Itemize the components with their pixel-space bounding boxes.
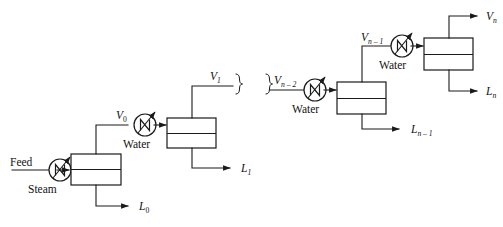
feed-label: Feed <box>10 156 33 168</box>
Vn-vapor-line <box>449 16 477 38</box>
Vn-2-label: Vn – 2 <box>274 74 296 89</box>
evaporator-flowsheet-diagram: Feed Steam V0 L0 Water V1 L1 <box>0 0 503 227</box>
heat-exchanger-1 <box>134 112 156 136</box>
water-3-label: Water <box>379 59 406 71</box>
Vn-label: Vn <box>486 10 497 25</box>
evaporator-4 <box>424 38 473 70</box>
V1-vapor-line <box>192 86 233 118</box>
L0-label: L0 <box>138 200 149 215</box>
Ln-1-liquid-line <box>362 114 399 129</box>
L1-liquid-line <box>192 148 230 168</box>
steam-label: Steam <box>28 183 57 195</box>
flowsheet-canvas: Feed Steam V0 L0 Water V1 L1 <box>0 0 503 227</box>
Vn-1-label: Vn – 1 <box>361 31 383 46</box>
heat-exchanger-2 <box>304 77 326 101</box>
heat-exchanger-3 <box>391 33 413 57</box>
break-mark-left <box>236 74 243 94</box>
stage-n-minus-1-group: Vn – 2 Water Ln – 1 <box>270 46 433 138</box>
stage-1-group: Water V1 L1 <box>123 70 251 177</box>
evaporator-3 <box>337 82 386 114</box>
Ln-1-label: Ln – 1 <box>410 123 433 138</box>
Ln-liquid-line <box>449 70 477 91</box>
break-mark-right <box>266 74 273 94</box>
V0-label: V0 <box>116 109 127 124</box>
evaporator-2 <box>167 118 216 148</box>
evaporator-1 <box>71 154 121 185</box>
heat-exchanger-steam <box>49 157 71 181</box>
Ln-label: Ln <box>485 85 496 100</box>
L1-label: L1 <box>240 162 251 177</box>
break-marks-group <box>236 74 273 94</box>
water-2-label: Water <box>292 103 319 115</box>
stage-0-group: Feed Steam V0 L0 <box>10 109 149 215</box>
L0-liquid-line <box>96 185 128 206</box>
V1-label: V1 <box>210 70 221 85</box>
water-1-label: Water <box>123 138 150 150</box>
